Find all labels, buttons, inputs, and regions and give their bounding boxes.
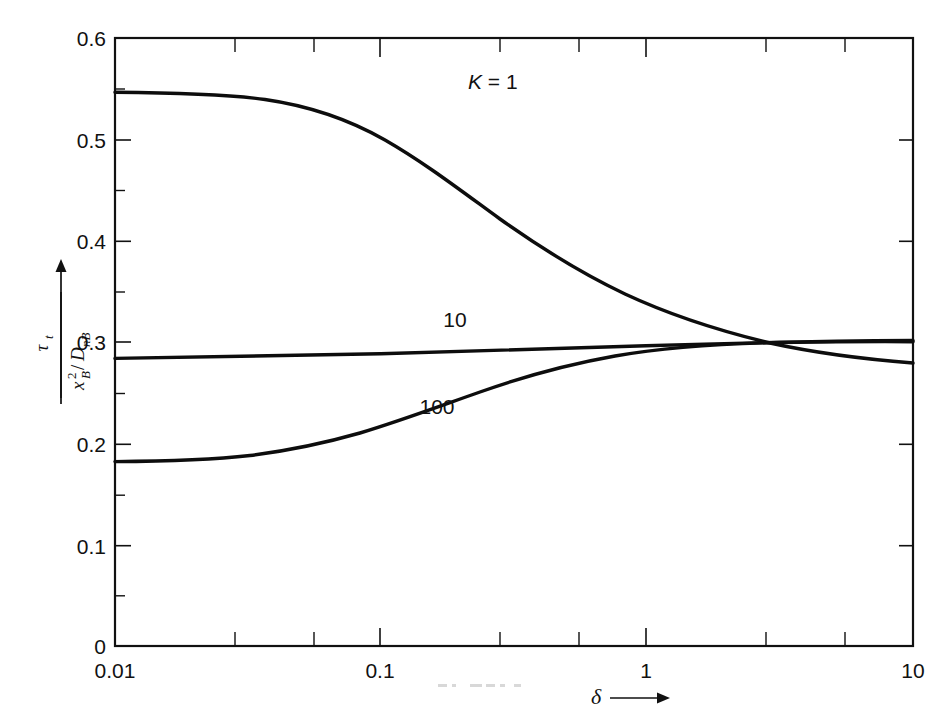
chart-svg: 0.6 0.5 0.4 0.3 0.2 0.1 0 0.01 0.1 1 10 … (0, 0, 946, 715)
y-tick-label-0: 0 (94, 635, 106, 658)
svg-text:τ: τ (31, 343, 52, 351)
x-tick-label-1: 1 (640, 659, 652, 682)
svg-text:x: x (67, 381, 88, 391)
x-tick-label-0.01: 0.01 (95, 659, 136, 682)
y-tick-label-0.5: 0.5 (77, 129, 106, 152)
y-tick-label-0.6: 0.6 (77, 27, 106, 50)
y-tick-label-0.2: 0.2 (77, 433, 106, 456)
curve-label-k-1: K = 1 (468, 70, 518, 93)
y-axis-arrow-icon (56, 259, 67, 272)
x-tick-label-10: 10 (901, 659, 924, 682)
y-label-numerator: τ t (31, 335, 56, 351)
y-tick-label-0.4: 0.4 (77, 230, 107, 253)
curve-k-1 (115, 92, 913, 363)
x-axis-label-group: δ (591, 684, 670, 709)
x-ticks-bottom (235, 628, 845, 646)
curve-label-k-10: 10 (443, 308, 466, 331)
svg-text:t: t (41, 335, 56, 339)
figure-container: 0.6 0.5 0.4 0.3 0.2 0.1 0 0.01 0.1 1 10 … (0, 0, 946, 715)
svg-text:D: D (67, 347, 88, 362)
x-axis-arrow-icon (657, 693, 670, 704)
svg-text:2: 2 (64, 373, 79, 380)
y-major-ticks (115, 38, 131, 646)
curve-k-100 (115, 342, 913, 462)
y-label-denominator: x B 2 / D nB (64, 333, 93, 392)
svg-text:/: / (67, 364, 88, 370)
scan-artifact (438, 684, 521, 687)
x-axis-label-delta: δ (591, 684, 602, 709)
svg-text:nB: nB (78, 333, 93, 348)
x-tick-label-0.1: 0.1 (365, 659, 394, 682)
curve-label-k-100: 100 (419, 395, 454, 418)
x-ticks-top (235, 38, 845, 57)
svg-text:B: B (78, 371, 93, 379)
y-tick-label-0.1: 0.1 (77, 535, 106, 558)
